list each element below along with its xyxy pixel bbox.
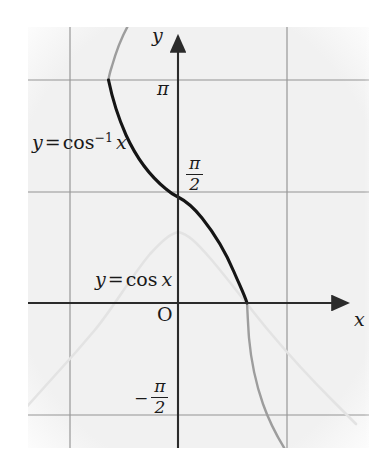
arccos-label-y: y [32,131,43,153]
arccos-label-exponent: −1 [95,130,113,145]
fraction-neg-pi-over-two: π 2 [151,378,168,416]
plot-canvas [0,0,383,467]
y-tick-label-negative-pi-over-two: − π 2 [134,378,168,416]
cos-label-variable: x [158,268,173,290]
fraction-pi-over-two: π 2 [186,155,203,193]
inverse-cosine-graph-figure: y x π π 2 − π 2 O y=cos−1x y=cosx [0,0,383,467]
fraction-denominator: 2 [186,175,203,194]
arccos-label-function: cos [63,131,95,153]
y-axis-label: y [152,26,163,45]
cos-label-y: y [95,268,106,290]
y-tick-label-pi-over-two: π 2 [186,155,203,193]
fraction-numerator: π [151,378,168,398]
fraction-denominator: 2 [151,398,168,417]
minus-sign: − [134,390,148,407]
cos-label-equals: = [106,268,126,290]
x-axis-label: x [354,310,365,329]
cos-label-function: cos [126,268,158,290]
cos-curve-label: y=cosx [95,270,172,289]
y-tick-label-pi: π [157,80,169,98]
fraction-numerator: π [186,155,203,175]
arccos-label-equals: = [43,131,63,153]
origin-label: O [157,305,173,324]
arccos-label-variable: x [113,131,127,153]
arccos-curve-label: y=cos−1x [32,133,127,152]
